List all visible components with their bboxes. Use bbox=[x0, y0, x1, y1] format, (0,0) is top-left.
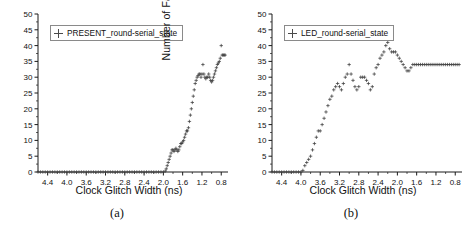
svg-text:30: 30 bbox=[24, 73, 33, 82]
plus-icon bbox=[54, 29, 63, 38]
svg-text:5: 5 bbox=[262, 152, 267, 161]
svg-text:10: 10 bbox=[24, 136, 33, 145]
panel-b-legend-label: LED_round-serial_state bbox=[301, 28, 388, 38]
panel-a-caption: (a) bbox=[0, 206, 234, 221]
svg-text:5: 5 bbox=[28, 152, 33, 161]
svg-text:40: 40 bbox=[258, 42, 267, 51]
figure-root: Number of Faulty Bits 051015202530354045… bbox=[0, 0, 468, 233]
svg-text:25: 25 bbox=[24, 89, 33, 98]
plus-icon bbox=[288, 29, 297, 38]
panel-b-legend: LED_round-serial_state bbox=[284, 25, 394, 41]
svg-text:35: 35 bbox=[258, 57, 267, 66]
panel-a-figure: Number of Faulty Bits 051015202530354045… bbox=[0, 0, 234, 205]
svg-text:35: 35 bbox=[24, 57, 33, 66]
svg-text:15: 15 bbox=[258, 121, 267, 130]
svg-text:15: 15 bbox=[24, 121, 33, 130]
panel-b-y-axis-label: Number of Faulty Bits bbox=[158, 0, 174, 94]
svg-text:0: 0 bbox=[262, 168, 267, 177]
panel-b-figure: Number of Faulty Bits 051015202530354045… bbox=[234, 0, 468, 205]
svg-text:50: 50 bbox=[258, 10, 267, 19]
svg-text:50: 50 bbox=[24, 10, 33, 19]
svg-text:0: 0 bbox=[28, 168, 33, 177]
panel-b-x-axis-label: Clock Glitch Width (ns) bbox=[270, 184, 456, 196]
panel-b-caption: (b) bbox=[234, 206, 468, 221]
panel-a: Number of Faulty Bits 051015202530354045… bbox=[0, 0, 234, 233]
svg-text:30: 30 bbox=[258, 73, 267, 82]
svg-text:20: 20 bbox=[258, 105, 267, 114]
svg-text:25: 25 bbox=[258, 89, 267, 98]
svg-text:45: 45 bbox=[24, 26, 33, 35]
svg-text:45: 45 bbox=[258, 26, 267, 35]
panel-a-x-axis-label: Clock Glitch Width (ns) bbox=[36, 184, 222, 196]
panel-b: Number of Faulty Bits 051015202530354045… bbox=[234, 0, 468, 233]
svg-text:40: 40 bbox=[24, 42, 33, 51]
svg-text:10: 10 bbox=[258, 136, 267, 145]
svg-text:20: 20 bbox=[24, 105, 33, 114]
